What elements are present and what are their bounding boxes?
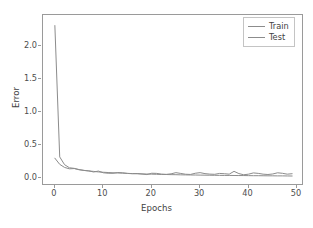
- figure-canvas: 0.00.51.01.52.0 Error Epochs TrainTest 0…: [0, 0, 313, 228]
- y-axis-label-wrapper: Error: [4, 68, 23, 128]
- legend-item: Train: [248, 21, 289, 32]
- x-axis-tick-label: 10: [97, 189, 107, 197]
- legend-line-swatch: [248, 37, 265, 38]
- y-axis-tick-label: 1.5: [24, 74, 37, 82]
- x-axis-tick-label: 40: [242, 189, 252, 197]
- x-axis-tick-mark: [102, 185, 103, 188]
- y-axis-tick-mark: [38, 144, 41, 145]
- y-axis-tick-label: 0.0: [24, 173, 37, 181]
- x-axis-label: Epochs: [0, 203, 313, 213]
- x-axis-tick-mark: [151, 185, 152, 188]
- chart-legend: TrainTest: [243, 17, 295, 47]
- y-axis-tick-mark: [38, 177, 41, 178]
- y-axis-tick-mark: [38, 45, 41, 46]
- x-axis-tick-mark: [54, 185, 55, 188]
- legend-line-swatch: [248, 26, 265, 27]
- y-axis-tick-mark: [38, 111, 41, 112]
- x-axis-tick-mark: [199, 185, 200, 188]
- y-axis-tick-label: 0.5: [24, 140, 37, 148]
- x-axis-tick-label: 20: [145, 189, 155, 197]
- y-axis-label: Error: [11, 87, 21, 108]
- legend-label: Test: [269, 33, 285, 41]
- y-axis-tick-mark: [38, 78, 41, 79]
- series-line: [55, 26, 292, 176]
- legend-item: Test: [248, 32, 289, 43]
- y-axis-tick-label: 2.0: [24, 41, 37, 49]
- x-axis-tick-mark: [248, 185, 249, 188]
- x-axis-tick-label: 30: [194, 189, 204, 197]
- y-axis-tick-label: 1.0: [24, 107, 37, 115]
- series-line: [55, 158, 292, 175]
- x-axis-tick-mark: [296, 185, 297, 188]
- legend-label: Train: [269, 22, 289, 30]
- x-axis-tick-label: 50: [291, 189, 301, 197]
- x-axis-tick-label: 0: [51, 189, 56, 197]
